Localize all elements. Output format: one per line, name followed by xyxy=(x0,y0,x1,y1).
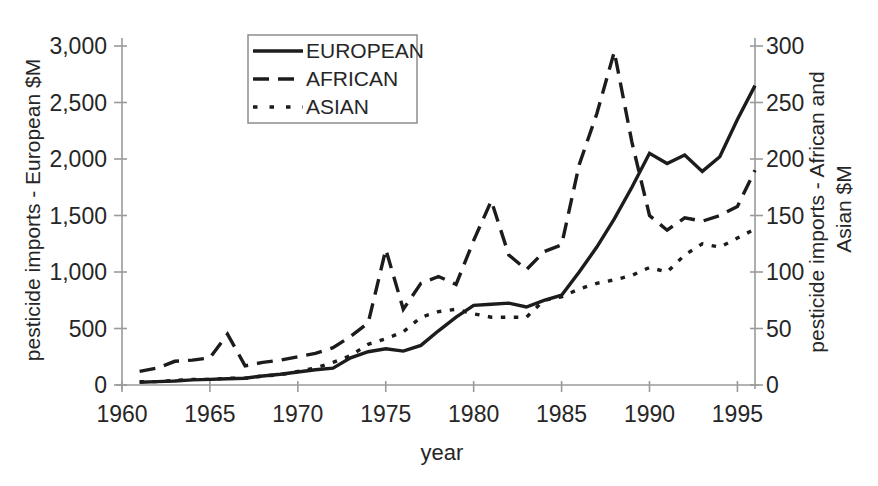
legend-label-asian: ASIAN xyxy=(306,95,369,118)
x-tick-label: 1960 xyxy=(96,401,147,427)
pesticide-imports-figure: 1960196519701975198019851990199505001,00… xyxy=(0,0,878,486)
left-y-tick-label: 3,000 xyxy=(49,33,107,59)
x-tick-label: 1990 xyxy=(624,401,675,427)
left-y-tick-label: 2,500 xyxy=(49,90,107,116)
right-y-tick-label: 300 xyxy=(766,33,804,59)
x-tick-label: 1970 xyxy=(272,401,323,427)
left-y-axis-title: pesticide imports - European $M xyxy=(21,59,44,361)
right-y-tick-label: 200 xyxy=(766,146,804,172)
right-y-tick-label: 250 xyxy=(766,90,804,116)
x-tick-label: 1980 xyxy=(448,401,499,427)
x-tick-label: 1975 xyxy=(360,401,411,427)
right-y-axis-title-line1: pesticide imports - African and xyxy=(805,71,828,352)
right-y-axis-title-line2: Asian $M xyxy=(832,165,855,253)
right-y-tick-label: 100 xyxy=(766,259,804,285)
left-y-tick-label: 500 xyxy=(69,316,107,342)
right-y-tick-label: 50 xyxy=(766,316,792,342)
right-y-tick-label: 0 xyxy=(766,372,779,398)
x-tick-label: 1985 xyxy=(536,401,587,427)
x-tick-label: 1995 xyxy=(712,401,763,427)
x-tick-label: 1965 xyxy=(184,401,235,427)
pesticide-imports-chart: 1960196519701975198019851990199505001,00… xyxy=(0,0,878,486)
plot-area: 1960196519701975198019851990199505001,00… xyxy=(49,33,804,427)
left-y-tick-label: 1,000 xyxy=(49,259,107,285)
legend-label-african: AFRICAN xyxy=(306,67,398,90)
legend-label-european: EUROPEAN xyxy=(306,39,424,62)
legend: EUROPEAN AFRICAN ASIAN xyxy=(248,35,424,123)
series-line-asian xyxy=(140,229,755,382)
left-y-tick-label: 2,000 xyxy=(49,146,107,172)
series-line-european xyxy=(140,86,755,383)
x-axis-title: year xyxy=(421,440,464,465)
left-y-tick-label: 0 xyxy=(94,372,107,398)
right-y-tick-label: 150 xyxy=(766,203,804,229)
left-y-tick-label: 1,500 xyxy=(49,203,107,229)
